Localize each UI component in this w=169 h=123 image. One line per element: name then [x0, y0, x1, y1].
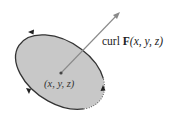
boundary-arrowhead-left: [26, 88, 31, 94]
curl-label: curl F(x, y, z): [102, 35, 163, 47]
curl-diagram: curl F(x, y, z) (x, y, z): [0, 0, 169, 123]
diagram-graphic: [0, 0, 169, 123]
center-point: [59, 71, 62, 74]
point-label: (x, y, z): [44, 78, 74, 89]
boundary-arrowhead-top: [28, 30, 34, 35]
curl-prefix: curl: [102, 35, 123, 47]
curl-args: (x, y, z): [130, 35, 163, 47]
point-coordinates: (x, y, z): [44, 78, 74, 89]
vector-field-symbol: F: [123, 35, 130, 47]
